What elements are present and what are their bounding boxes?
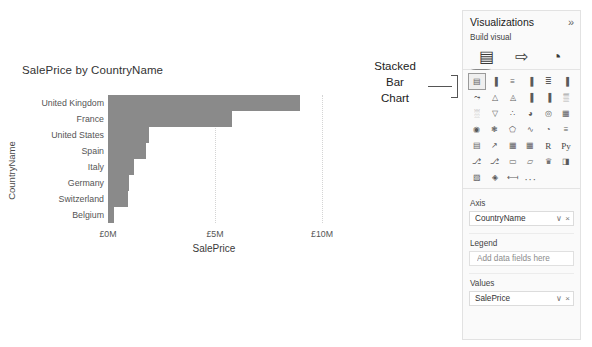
- bar-row[interactable]: Switzerland: [108, 191, 322, 207]
- category-label: France: [77, 111, 104, 127]
- sale-price-bar-chart[interactable]: SalePrice by CountryName CountryName Uni…: [0, 55, 350, 285]
- stacked-bar-chart-callout: StackedBarChart: [366, 58, 462, 120]
- pie-chart-icon[interactable]: ◕: [522, 106, 538, 121]
- callout-line-text: Stacked: [366, 58, 424, 74]
- area-chart-icon[interactable]: △: [487, 90, 503, 105]
- key-influencers-icon[interactable]: ⎇: [487, 154, 503, 169]
- category-label: Switzerland: [59, 191, 104, 207]
- category-label: Spain: [82, 143, 105, 159]
- visual-type-gallery[interactable]: ▤▐≡▐≣▐⤳△◬▐▐▒░▽∴◕◎▦◉❃⬠∿◔≡▤↗▦▦RPy⎇⎇▭▱♛◨▨◈⟻…: [463, 70, 580, 189]
- bar[interactable]: [108, 159, 134, 175]
- python-visual-icon[interactable]: Py: [558, 138, 574, 153]
- callout-text: StackedBarChart: [366, 58, 424, 106]
- bar[interactable]: [108, 175, 129, 191]
- bar[interactable]: [108, 111, 232, 127]
- bar-row[interactable]: United States: [108, 127, 322, 143]
- more-visuals-icon[interactable]: ···: [522, 170, 538, 185]
- close-icon[interactable]: ×: [565, 214, 570, 223]
- filled-map-icon[interactable]: ❃: [487, 122, 503, 137]
- bar[interactable]: [108, 191, 128, 207]
- donut-chart-icon[interactable]: ◎: [540, 106, 556, 121]
- bar-row[interactable]: Italy: [108, 159, 322, 175]
- well-values[interactable]: SalePrice∨×: [469, 291, 574, 306]
- close-icon[interactable]: ×: [565, 294, 570, 303]
- stacked-column-chart-icon[interactable]: ▐: [487, 74, 503, 89]
- callout-bracket: [451, 75, 458, 98]
- category-label: Germany: [68, 175, 104, 191]
- gauge-icon[interactable]: ◔: [540, 122, 556, 137]
- x-axis-tick-label: £5M: [206, 229, 223, 239]
- chevron-down-icon[interactable]: ∨: [556, 214, 562, 223]
- bar[interactable]: [108, 127, 149, 143]
- visualizations-tab-strip: ▤⇨◔: [463, 44, 580, 70]
- chart-title: SalePrice by CountryName: [22, 64, 163, 76]
- bar-row[interactable]: Spain: [108, 143, 322, 159]
- magnifier-icon[interactable]: ◔: [546, 47, 568, 67]
- field-wells: AxisCountryName∨×LegendAdd data fields h…: [463, 189, 580, 339]
- funnel-chart-icon[interactable]: ▽: [487, 106, 503, 121]
- visualizations-pane: Visualizations » Build visual ▤⇨◔ ▤▐≡▐≣▐…: [462, 10, 581, 340]
- x-axis-title: SalePrice: [107, 243, 321, 254]
- well-value-axis: CountryName: [475, 214, 556, 223]
- visio-visual-icon[interactable]: ⟻: [505, 170, 521, 185]
- well-separator: [469, 233, 574, 234]
- multi-row-card-icon[interactable]: ▤: [469, 138, 485, 153]
- well-controls-values: ∨×: [556, 294, 570, 303]
- paint-roller-icon[interactable]: ⇨: [511, 47, 533, 67]
- bar-row[interactable]: Germany: [108, 175, 322, 191]
- well-value-values: SalePrice: [475, 294, 556, 303]
- well-label-legend: Legend: [470, 239, 574, 248]
- bar[interactable]: [108, 95, 300, 111]
- well-axis[interactable]: CountryName∨×: [469, 211, 574, 226]
- stacked-area-chart-icon[interactable]: ◬: [505, 90, 521, 105]
- y-axis-title: CountryName: [2, 115, 20, 225]
- waterfall-chart-icon[interactable]: ░: [469, 106, 485, 121]
- stacked-bar-chart-icon[interactable]: ▤: [469, 74, 485, 89]
- r-script-visual-icon[interactable]: R: [540, 138, 556, 153]
- gridline: [322, 95, 323, 223]
- hundred-percent-stacked-column-chart-icon[interactable]: ▐: [558, 74, 574, 89]
- power-apps-icon[interactable]: ◨: [558, 154, 574, 169]
- clustered-column-chart-icon[interactable]: ▐: [522, 74, 538, 89]
- kpi-icon[interactable]: ↗: [487, 138, 503, 153]
- scatter-chart-icon[interactable]: ∴: [505, 106, 521, 121]
- fields-table-icon[interactable]: ▤: [476, 47, 498, 67]
- power-automate-icon[interactable]: ▨: [469, 170, 485, 185]
- clustered-bar-chart-icon[interactable]: ≡: [505, 74, 521, 89]
- shape-map-icon[interactable]: ⬠: [505, 122, 521, 137]
- well-controls-axis: ∨×: [556, 214, 570, 223]
- bar-row[interactable]: France: [108, 111, 322, 127]
- bar[interactable]: [108, 143, 146, 159]
- chevron-down-icon[interactable]: ∨: [556, 294, 562, 303]
- build-visual-label: Build visual: [463, 33, 580, 42]
- visualizations-title: Visualizations: [470, 16, 534, 28]
- treemap-icon[interactable]: ▦: [558, 106, 574, 121]
- hundred-percent-stacked-bar-chart-icon[interactable]: ≣: [540, 74, 556, 89]
- bar[interactable]: [108, 207, 114, 223]
- expand-pane-icon[interactable]: »: [568, 17, 574, 28]
- category-label: United States: [51, 127, 104, 143]
- map-icon[interactable]: ◉: [469, 122, 485, 137]
- well-legend[interactable]: Add data fields here: [469, 251, 574, 266]
- y-axis-title-label: CountryName: [6, 141, 17, 200]
- table-icon[interactable]: ▦: [522, 138, 538, 153]
- category-label: Italy: [88, 159, 104, 175]
- card-icon[interactable]: ≡: [558, 122, 574, 137]
- line-chart-icon[interactable]: ⤳: [469, 90, 485, 105]
- smart-narrative-icon[interactable]: ▭: [505, 154, 521, 169]
- well-label-axis: Axis: [470, 199, 574, 208]
- arcgis-maps-icon[interactable]: ◈: [487, 170, 503, 185]
- scorecard-icon[interactable]: ♛: [540, 154, 556, 169]
- bar-row[interactable]: Belgium: [108, 207, 322, 223]
- decomposition-tree-icon[interactable]: ⎇: [469, 154, 485, 169]
- visualizations-header: Visualizations »: [463, 11, 580, 33]
- bar-row[interactable]: United Kingdom: [108, 95, 322, 111]
- azure-map-icon[interactable]: ∿: [522, 122, 538, 137]
- slicer-icon[interactable]: ▦: [505, 138, 521, 153]
- ribbon-chart-icon[interactable]: ▒: [558, 90, 574, 105]
- well-value-legend: Add data fields here: [477, 254, 570, 263]
- line-and-stacked-column-chart-icon[interactable]: ▐: [522, 90, 538, 105]
- paginated-report-icon[interactable]: ▱: [522, 154, 538, 169]
- category-label: Belgium: [72, 207, 104, 223]
- line-and-clustered-column-chart-icon[interactable]: ▐: [540, 90, 556, 105]
